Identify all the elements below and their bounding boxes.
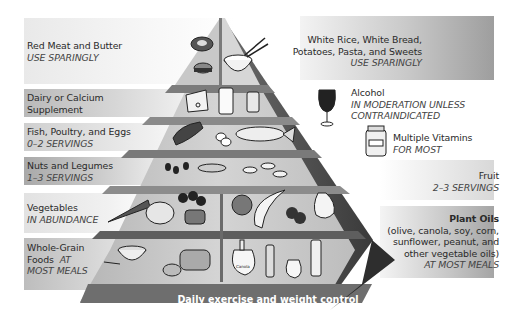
oil-bottle-icon [266, 245, 274, 277]
label-alcohol: Alcohol IN MODERATION UNLESS CONTRAINDIC… [351, 87, 465, 122]
label-red-meat: Red Meat and Butter USE SPARINGLY [27, 40, 122, 63]
label-subtitle-line2: CONTRAINDICATED [351, 110, 465, 122]
wine-glass-icon [319, 90, 336, 126]
label-title-line2: Foods AT [27, 254, 88, 266]
orange-icon [232, 195, 252, 215]
label-vegetables: Vegetables IN ABUNDANCE [27, 202, 98, 225]
label-subtitle: USE SPARINGLY [27, 52, 122, 64]
label-line: (olive, canola, soy, corn, [380, 225, 499, 237]
steak-icon [191, 37, 213, 51]
pepper-icon [185, 210, 205, 224]
label-title: Whole-Grain [27, 242, 88, 254]
yogurt-jar-icon [247, 92, 259, 112]
label-title: Fruit [380, 170, 499, 182]
label-title: Alcohol [351, 87, 465, 99]
label-title: White Rice, White Bread, [280, 34, 422, 46]
label-vitamins: Multiple Vitamins FOR MOST [393, 132, 472, 155]
label-line: other vegetable oils) [380, 248, 499, 260]
label-title: Fish, Poultry, and Eggs [27, 126, 131, 138]
label-fish: Fish, Poultry, and Eggs 0–2 SERVINGS [27, 126, 131, 149]
label-title: Dairy or Calcium [27, 92, 104, 104]
burger-icon [194, 63, 212, 73]
label-plant-oils: Plant Oils (olive, canola, soy, corn, su… [380, 213, 499, 271]
label-whole-grain: Whole-Grain Foods AT MOST MEALS [27, 242, 88, 277]
label-title: Nuts and Legumes [27, 160, 113, 172]
label-title: Multiple Vitamins [393, 132, 472, 144]
label-subtitle: AT MOST MEALS [380, 259, 499, 271]
label-title-line2: Supplement [27, 104, 104, 116]
cabbage-icon [146, 202, 174, 224]
label-subtitle: IN MODERATION UNLESS [351, 99, 465, 111]
label-fruit: Fruit 2–3 SERVINGS [380, 170, 499, 193]
label-subtitle: 0–2 SERVINGS [27, 138, 131, 150]
label-subtitle: USE SPARINGLY [280, 57, 422, 69]
vitamin-bottle-icon [366, 126, 386, 156]
label-dairy: Dairy or Calcium Supplement [27, 92, 104, 115]
base-label: Daily exercise and weight control [138, 294, 398, 305]
vegetable-oil-bottle-icon [311, 240, 321, 276]
label-title-line2: Potatoes, Pasta, and Sweets [280, 46, 422, 58]
label-subtitle: IN ABUNDANCE [27, 214, 98, 226]
label-title: Plant Oils [380, 213, 499, 225]
label-subtitle: 2–3 SERVINGS [380, 182, 499, 194]
svg-text:Canola: Canola [236, 264, 250, 269]
label-subtitle: MOST MEALS [27, 265, 88, 277]
label-subtitle: 1–3 SERVINGS [27, 172, 113, 184]
label-white-rice: White Rice, White Bread, Potatoes, Pasta… [280, 34, 422, 69]
label-subtitle: FOR MOST [393, 144, 472, 156]
label-title: Vegetables [27, 202, 98, 214]
label-title: Red Meat and Butter [27, 40, 122, 52]
peapod-icon [198, 164, 226, 172]
label-line: sunflower, peanut, and [380, 236, 499, 248]
milk-glass-icon [219, 88, 233, 114]
label-nuts: Nuts and Legumes 1–3 SERVINGS [27, 160, 113, 183]
soy-oil-cruet-icon [286, 260, 301, 278]
